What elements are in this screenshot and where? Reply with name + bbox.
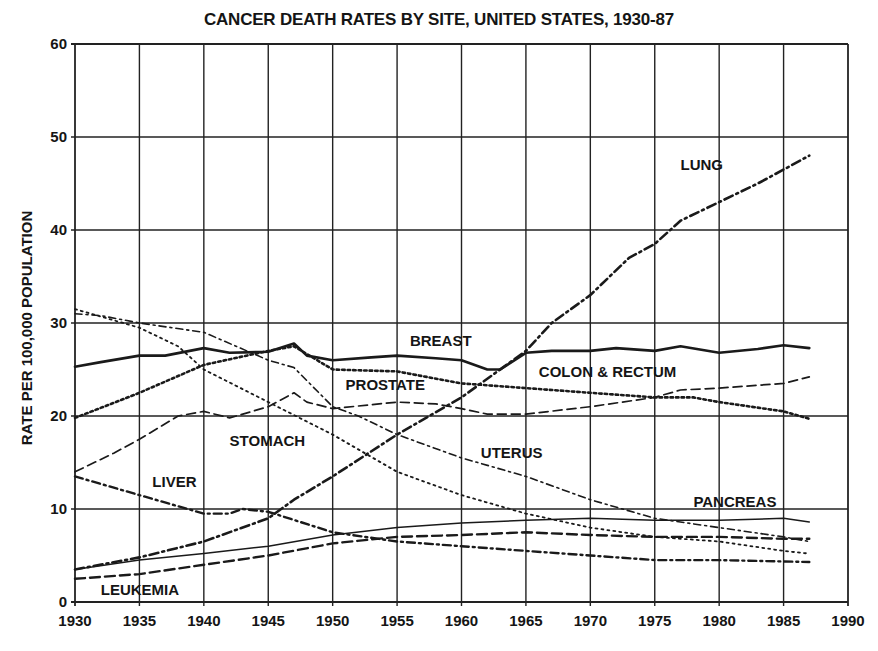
grid-lines <box>71 44 848 606</box>
y-tick-label: 40 <box>50 221 67 238</box>
x-tick-label: 1980 <box>702 612 735 629</box>
x-tick-label: 1975 <box>638 612 671 629</box>
series-label-colon-rectum: COLON & RECTUM <box>539 363 677 380</box>
y-tick-label: 50 <box>50 128 67 145</box>
x-tick-label: 1985 <box>767 612 800 629</box>
y-tick-label: 10 <box>50 500 67 517</box>
x-tick-label: 1990 <box>831 612 864 629</box>
x-tick-label: 1930 <box>58 612 91 629</box>
series-label-pancreas: PANCREAS <box>693 493 776 510</box>
x-tick-label: 1965 <box>509 612 542 629</box>
series-label-leukemia: LEUKEMIA <box>101 581 179 598</box>
x-tick-label: 1950 <box>316 612 349 629</box>
y-tick-label: 60 <box>50 35 67 52</box>
x-tick-label: 1960 <box>445 612 478 629</box>
x-tick-label: 1935 <box>123 612 156 629</box>
y-tick-label: 30 <box>50 314 67 331</box>
x-tick-label: 1970 <box>574 612 607 629</box>
y-tick-label: 20 <box>50 407 67 424</box>
series-label-prostate: PROSTATE <box>346 376 425 393</box>
y-tick-label: 0 <box>59 593 67 610</box>
x-tick-label: 1945 <box>252 612 285 629</box>
x-tick-label: 1955 <box>380 612 413 629</box>
series-label-liver: LIVER <box>152 473 196 490</box>
series-prostate <box>75 377 809 472</box>
x-tick-label: 1940 <box>187 612 220 629</box>
series-label-uterus: UTERUS <box>481 444 543 461</box>
data-series <box>75 156 809 579</box>
series-label-lung: LUNG <box>681 156 724 173</box>
series-label-stomach: STOMACH <box>230 432 306 449</box>
series-label-breast: BREAST <box>410 332 472 349</box>
line-chart: 1930193519401945195019551960196519701975… <box>0 0 878 651</box>
series-labels: LUNGBREASTCOLON & RECTUMPROSTATESTOMACHU… <box>101 156 777 599</box>
